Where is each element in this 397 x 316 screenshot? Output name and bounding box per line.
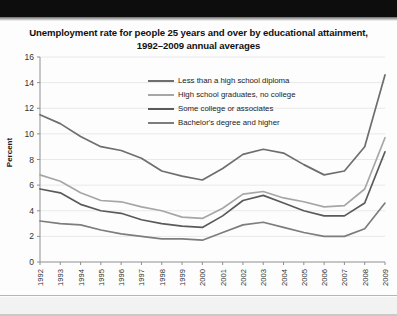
- x-axis-tick-label: 2008: [361, 269, 370, 286]
- x-axis-tick-label: 2009: [381, 269, 390, 286]
- x-axis-tick-label: 2004: [280, 269, 289, 286]
- legend-color-swatch: [148, 122, 174, 124]
- chart-screenshot: Unemployment rate for people 25 years an…: [0, 0, 397, 316]
- x-axis-tick-label: 1999: [178, 269, 187, 286]
- legend-label: Some college or associates: [178, 102, 273, 115]
- x-axis-tick-label: 1997: [137, 269, 146, 286]
- plot-area: 0246810121416199219931994199519961997199…: [0, 0, 397, 316]
- x-axis-tick-label: 2000: [198, 269, 207, 286]
- data-series-line: [40, 152, 385, 228]
- footer-divider: [0, 295, 397, 296]
- y-axis-tick-label: 8: [29, 155, 34, 165]
- y-axis-tick-label: 10: [25, 129, 35, 139]
- y-axis-tick-label: 6: [29, 180, 34, 190]
- legend-color-swatch: [148, 94, 174, 96]
- data-series-line: [40, 138, 385, 219]
- y-axis-tick-label: 14: [25, 78, 35, 88]
- x-axis-tick-label: 2006: [320, 269, 329, 286]
- x-axis-tick-label: 2005: [300, 269, 309, 286]
- x-axis-tick-label: 2002: [239, 269, 248, 286]
- x-axis-tick-label: 1998: [158, 269, 167, 286]
- y-axis-tick-label: 0: [29, 257, 34, 267]
- y-axis-tick-label: 16: [25, 52, 35, 62]
- legend-label: High school graduates, no college: [178, 88, 295, 101]
- x-axis-tick-label: 1994: [77, 269, 86, 286]
- x-axis-tick-label: 1992: [36, 269, 45, 286]
- line-chart: 0246810121416199219931994199519961997199…: [0, 0, 397, 316]
- x-axis-tick-label: 2007: [340, 269, 349, 286]
- x-axis-tick-label: 1995: [97, 269, 106, 286]
- y-axis-tick-label: 12: [25, 103, 35, 113]
- x-axis-tick-label: 2003: [259, 269, 268, 286]
- y-axis-tick-label: 4: [29, 206, 34, 216]
- x-axis-tick-label: 1996: [117, 269, 126, 286]
- legend-label: Less than a high school diploma: [178, 74, 289, 87]
- y-axis-tick-label: 2: [29, 231, 34, 241]
- x-axis-tick-label: 2001: [219, 269, 228, 286]
- x-axis-tick-label: 1993: [56, 269, 65, 286]
- legend-color-swatch: [148, 80, 174, 82]
- legend-label: Bachelor's degree and higher: [178, 116, 280, 129]
- legend-color-swatch: [148, 108, 174, 110]
